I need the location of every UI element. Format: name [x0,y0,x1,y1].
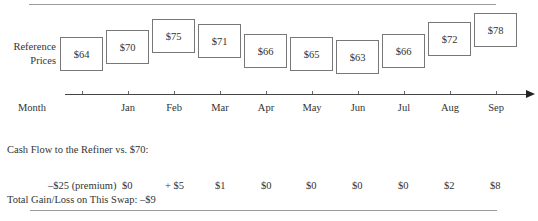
month-label: Jul [384,102,424,113]
premium-cash-flow: –$25 (premium) [48,180,117,191]
total-gain-loss: Total Gain/Loss on This Swap: –$9 [7,194,156,205]
price-box: $72 [428,22,471,56]
axis-tick [312,91,313,94]
axis-tick [404,91,405,94]
price-value: $64 [74,49,90,60]
axis-tick [358,91,359,94]
axis-tick [266,91,267,94]
month-header: Month [18,102,46,113]
price-value: $70 [120,42,136,53]
month-label: Mar [200,102,240,113]
price-value: $72 [442,34,458,45]
top-rule [29,4,496,5]
price-box: $66 [382,34,425,68]
month-label: Aug [430,102,470,113]
time-axis [65,94,527,95]
month-label: Jan [108,102,148,113]
month-label: May [292,102,332,113]
price-value: $75 [166,31,182,42]
arrow-right-icon [526,90,535,98]
price-box: $70 [106,30,149,64]
cash-flow-value: $0 [352,180,363,191]
reference-prices-label-line1: Reference [0,40,56,54]
price-value: $71 [212,36,228,47]
price-value: $66 [396,46,412,57]
cash-flow-value: + $5 [165,180,184,191]
axis-tick [174,91,175,94]
cash-flow-value: $2 [444,180,455,191]
cash-flow-value: $1 [215,180,226,191]
cash-flow-value: $8 [490,180,501,191]
price-value: $78 [488,25,504,36]
bottom-rule [30,210,497,211]
price-box: $78 [474,13,517,47]
reference-prices-label: Reference Prices [0,40,56,68]
axis-tick [450,91,451,94]
cash-flow-value: $0 [306,180,317,191]
price-box: $64 [60,37,103,71]
price-box: $66 [244,34,287,68]
price-box: $75 [152,19,195,53]
month-label: Jun [338,102,378,113]
axis-tick [496,91,497,94]
price-box: $65 [290,37,333,71]
axis-tick [128,91,129,94]
month-label: Feb [154,102,194,113]
cash-flow-value: $0 [398,180,409,191]
price-box: $63 [336,40,379,74]
month-label: Apr [246,102,286,113]
axis-tick [82,91,83,94]
price-value: $66 [258,46,274,57]
price-value: $63 [350,52,366,63]
price-box: $71 [198,24,241,58]
cash-flow-title: Cash Flow to the Refiner vs. $70: [7,144,148,155]
month-label: Sep [476,102,516,113]
cash-flow-value: $0 [122,180,133,191]
price-value: $65 [304,49,320,60]
cash-flow-value: $0 [261,180,272,191]
axis-tick [220,91,221,94]
reference-prices-label-line2: Prices [0,54,56,68]
